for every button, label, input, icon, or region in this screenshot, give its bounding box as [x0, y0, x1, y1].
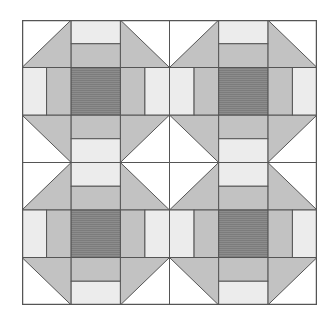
edge-light	[145, 210, 170, 258]
edge-light	[219, 139, 268, 163]
edge-medium	[268, 68, 293, 116]
edge-medium	[219, 44, 268, 68]
edge-medium	[47, 210, 72, 258]
center-square	[219, 210, 268, 258]
quilt-pattern	[22, 20, 317, 305]
edge-medium	[194, 210, 219, 258]
edge-light	[219, 163, 268, 187]
edge-light	[22, 210, 47, 258]
edge-medium	[47, 68, 72, 116]
edge-light	[219, 20, 268, 44]
edge-medium	[219, 258, 268, 282]
edge-medium	[71, 258, 120, 282]
edge-medium	[120, 210, 145, 258]
center-square	[219, 68, 268, 116]
edge-light	[22, 68, 47, 116]
edge-light	[71, 139, 120, 163]
center-square	[71, 68, 120, 116]
quilt-grid	[22, 20, 317, 305]
edge-medium	[71, 44, 120, 68]
edge-light	[170, 210, 195, 258]
edge-light	[71, 281, 120, 305]
edge-light	[292, 68, 317, 116]
edge-medium	[219, 115, 268, 139]
edge-light	[71, 20, 120, 44]
edge-medium	[71, 115, 120, 139]
edge-light	[145, 68, 170, 116]
edge-medium	[219, 186, 268, 210]
edge-medium	[120, 68, 145, 116]
edge-light	[292, 210, 317, 258]
edge-medium	[194, 68, 219, 116]
center-square	[71, 210, 120, 258]
edge-light	[219, 281, 268, 305]
edge-light	[170, 68, 195, 116]
edge-light	[71, 163, 120, 187]
edge-medium	[268, 210, 293, 258]
edge-medium	[71, 186, 120, 210]
